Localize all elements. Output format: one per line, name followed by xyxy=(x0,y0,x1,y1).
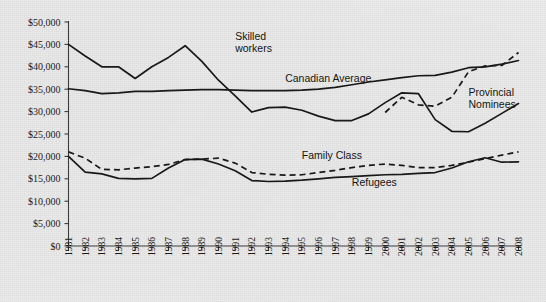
x-axis-tick-label: 1983 xyxy=(97,237,107,256)
x-axis-tick-label: 2005 xyxy=(464,237,474,256)
x-axis-tick-label: 1994 xyxy=(281,237,291,256)
line-chart: $0$5,000$10,000$15,000$20,000$25,000$30,… xyxy=(0,0,546,302)
series-line-skilled-workers xyxy=(69,44,519,131)
x-axis-tick-label: 1982 xyxy=(81,237,91,256)
x-axis-tick-label: 1990 xyxy=(214,237,224,256)
x-axis-tick-label: 1998 xyxy=(347,237,357,256)
y-axis-tick-label: $5,000 xyxy=(33,218,61,229)
x-axis-tick-label: 1995 xyxy=(297,237,307,256)
series-label-skilled-workers: Skilledworkers xyxy=(234,30,272,54)
series-line-family-class xyxy=(69,152,519,175)
series-label-canadian-average: Canadian Average xyxy=(285,72,371,84)
x-axis-tick-label: 1987 xyxy=(164,237,174,256)
x-axis-tick-label: 1989 xyxy=(197,237,207,256)
x-axis: 1981198219831984198519861987198819891990… xyxy=(64,237,524,256)
series-label-line: workers xyxy=(234,42,272,54)
y-axis-tick-label: $0 xyxy=(51,241,61,252)
chart-canvas: $0$5,000$10,000$15,000$20,000$25,000$30,… xyxy=(0,0,546,302)
y-axis-tick-label: $10,000 xyxy=(28,196,61,207)
x-axis-tick-label: 2001 xyxy=(397,237,407,256)
x-axis-tick-label: 1981 xyxy=(64,237,74,256)
x-axis-tick-label: 1991 xyxy=(231,237,241,256)
x-axis-tick-label: 1986 xyxy=(147,237,157,256)
x-axis-tick-label: 1993 xyxy=(264,237,274,256)
x-axis-tick-label: 2006 xyxy=(481,237,491,256)
y-axis-tick-label: $15,000 xyxy=(28,173,61,184)
series-label-provincial-nominees: ProvincialNominees xyxy=(469,86,516,110)
series-line-refugees xyxy=(69,156,519,181)
y-axis-tick-label: $25,000 xyxy=(28,129,61,140)
x-axis-tick-label: 2007 xyxy=(497,237,507,256)
x-axis-tick-label: 2002 xyxy=(414,237,424,256)
series-label-line: Nominees xyxy=(469,98,516,110)
x-axis-tick-label: 1984 xyxy=(114,237,124,256)
series-label-line: Canadian Average xyxy=(285,72,371,84)
y-axis-tick-label: $35,000 xyxy=(28,84,61,95)
x-axis-tick-label: 2004 xyxy=(447,237,457,256)
series-label-line: Family Class xyxy=(302,149,362,161)
y-axis-tick-label: $45,000 xyxy=(28,39,61,50)
x-axis-tick-label: 1985 xyxy=(131,237,141,256)
series-label-line: Refugees xyxy=(352,176,397,188)
x-axis-tick-label: 1992 xyxy=(247,237,257,256)
y-axis-tick-label: $20,000 xyxy=(28,151,61,162)
x-axis-tick-label: 1996 xyxy=(314,237,324,256)
series-layer xyxy=(69,44,519,181)
y-axis-tick-label: $30,000 xyxy=(28,106,61,117)
y-axis: $0$5,000$10,000$15,000$20,000$25,000$30,… xyxy=(28,17,69,252)
y-axis-tick-label: $50,000 xyxy=(28,17,61,28)
series-label-line: Skilled xyxy=(235,30,266,42)
x-axis-tick-label: 1997 xyxy=(331,237,341,256)
x-axis-tick-label: 2003 xyxy=(431,237,441,256)
x-axis-tick-label: 1999 xyxy=(364,237,374,256)
y-axis-tick-label: $40,000 xyxy=(28,61,61,72)
series-label-family-class: Family Class xyxy=(302,149,362,161)
series-label-line: Provincial xyxy=(469,86,515,98)
x-axis-tick-label: 1988 xyxy=(181,237,191,256)
x-axis-tick-label: 2000 xyxy=(381,237,391,256)
series-label-refugees: Refugees xyxy=(352,176,397,188)
x-axis-tick-label: 2008 xyxy=(514,237,524,256)
